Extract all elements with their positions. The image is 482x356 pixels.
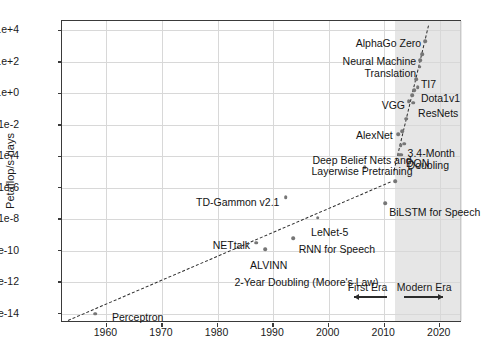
y-tick-label: 1e+4 (0, 23, 19, 35)
annotation-td-gammon: TD-Gammon v2.1 (196, 197, 279, 209)
y-tick-label: 1e+2 (0, 55, 19, 67)
y-tick-mark (58, 124, 62, 125)
x-tick-mark (384, 323, 385, 327)
y-axis-label: Petaflop/s-days (4, 133, 16, 209)
first-era-arrow-head-icon (354, 294, 359, 300)
annotation-dota1v1: Dota1v1 (421, 93, 460, 105)
x-tick-label: 1990 (260, 326, 283, 338)
data-point (384, 202, 388, 206)
annotation-ti7: TI7 (421, 79, 436, 91)
gridline-horizontal (62, 251, 460, 252)
x-tick-label: 2000 (316, 326, 339, 338)
x-tick-mark (272, 323, 273, 327)
data-point (412, 88, 416, 92)
y-tick-label: 1e-8 (0, 212, 19, 224)
y-tick-label: 1e-4 (0, 149, 19, 161)
data-point (291, 236, 295, 240)
y-tick-mark (58, 313, 62, 314)
data-point (394, 180, 398, 184)
data-point (411, 101, 415, 105)
annotation-alphago-zero: AlphaGo Zero (356, 38, 421, 50)
first-era-label: First Era (348, 281, 388, 293)
annotation-perceptron: Perceptron (112, 312, 163, 324)
compute-trend-chart: Petaflop/s-days 1e+41e+21e+01e-21e-41e-6… (0, 0, 482, 356)
y-tick-mark (58, 156, 62, 157)
gridline-horizontal (62, 125, 460, 126)
data-point (407, 99, 411, 103)
data-point (418, 65, 422, 69)
annotation-resnets: ResNets (418, 108, 458, 120)
annotation-neural-machine-translation: Neural Machine Translation (343, 56, 417, 79)
annotation-deep-belief-nets: Deep Belief Nets and Layerwise Pretraini… (312, 155, 413, 178)
y-tick-mark (58, 93, 62, 94)
y-tick-mark (58, 187, 62, 188)
data-point (284, 195, 288, 199)
x-tick-label: 1960 (94, 326, 117, 338)
y-tick-label: 1e+0 (0, 86, 19, 98)
y-tick-mark (58, 218, 62, 219)
y-tick-mark (58, 250, 62, 251)
gridline-vertical (106, 21, 107, 321)
x-tick-label: 2010 (372, 326, 395, 338)
data-point (416, 85, 420, 89)
y-tick-label: 1e-6 (0, 181, 19, 193)
x-tick-label: 2020 (427, 326, 450, 338)
x-tick-mark (106, 323, 107, 327)
annotation-bilstm-for-speech: BiLSTM for Speech (389, 207, 480, 219)
y-tick-mark (58, 61, 62, 62)
gridline-vertical (162, 21, 163, 321)
modern-era-arrow-head-icon (438, 294, 443, 300)
x-tick-mark (161, 323, 162, 327)
gridline-horizontal (62, 93, 460, 94)
data-point (424, 40, 428, 44)
data-point (405, 117, 409, 121)
data-point (264, 247, 268, 251)
y-tick-label: 1e-2 (0, 118, 19, 130)
annotation-vgg: VGG (382, 100, 405, 112)
x-tick-mark (328, 323, 329, 327)
y-tick-mark (58, 30, 62, 31)
data-point (419, 59, 423, 63)
gridline-vertical (218, 21, 219, 321)
data-point (396, 132, 400, 136)
data-point (94, 312, 98, 316)
data-point (400, 129, 404, 133)
annotation-rnn-for-speech: RNN for Speech (299, 244, 375, 256)
annotation-lenet-5: LeNet-5 (311, 227, 348, 239)
x-tick-mark (439, 323, 440, 327)
y-tick-label: 1e-12 (0, 275, 19, 287)
annotation-alvinn: ALVINN (250, 260, 287, 272)
gridline-horizontal (62, 188, 460, 189)
y-tick-label: 1e-10 (0, 244, 19, 256)
x-tick-label: 1980 (205, 326, 228, 338)
data-point (402, 142, 406, 146)
data-point (255, 241, 259, 245)
data-point (316, 216, 320, 220)
annotation-netttalk: NETtalk (213, 240, 250, 252)
gridline-horizontal (62, 30, 460, 31)
y-tick-mark (58, 281, 62, 282)
annotation-alexnet: AlexNet (356, 130, 393, 142)
y-tick-label: 1e-14 (0, 307, 19, 319)
gridline-horizontal (62, 219, 460, 220)
x-tick-mark (217, 323, 218, 327)
x-tick-label: 1970 (149, 326, 172, 338)
data-point (410, 93, 414, 97)
data-point (420, 52, 424, 56)
modern-era-label: Modern Era (397, 281, 452, 293)
plot-area: AlphaGo ZeroNeural Machine TranslationTI… (61, 20, 461, 322)
